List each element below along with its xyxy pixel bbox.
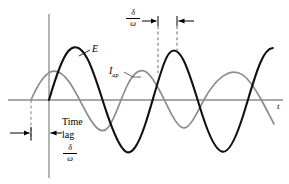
time-lag-fraction-denominator: ω	[63, 154, 77, 163]
leader-line-i-ap	[124, 72, 141, 77]
time-lag-label-line1: Time	[62, 117, 83, 127]
phase-shift-fraction-numerator: δ	[126, 9, 140, 18]
phase-lag-figure: E Iap t Time lag δ ω δ ω	[0, 0, 289, 184]
time-lag-label-line2: lag	[62, 130, 74, 140]
figure-canvas	[0, 0, 289, 184]
phase-shift-fraction-denominator: ω	[126, 19, 140, 28]
x-axis-label: t	[277, 102, 280, 111]
phase-shift-fraction: δ ω	[126, 9, 140, 28]
time-lag-fraction: δ ω	[63, 144, 77, 163]
curve-label-i-ap: Iap	[109, 66, 119, 78]
curve-label-e: E	[92, 44, 98, 54]
curve-label-i-ap-subscript: ap	[112, 71, 118, 78]
time-lag-fraction-numerator: δ	[63, 144, 77, 153]
